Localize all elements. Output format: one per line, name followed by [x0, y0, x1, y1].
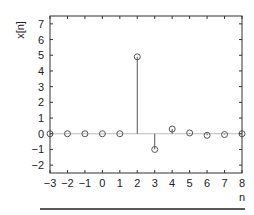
axis-ticks: [50, 16, 242, 173]
plot-frame: [50, 16, 242, 173]
y-tick-label: −2: [31, 159, 44, 171]
x-tick-label: −3: [44, 177, 57, 189]
y-tick-label: −1: [31, 143, 44, 155]
stem-point: [134, 54, 140, 134]
y-tick-label: 3: [38, 81, 44, 93]
x-tick-label: −1: [79, 177, 92, 189]
stem-point: [187, 130, 193, 136]
y-tick-label: 7: [38, 18, 44, 30]
tick-labels: −3−2−1012345678−2−101234567: [31, 18, 245, 189]
x-tick-label: 3: [152, 177, 158, 189]
stem-point: [222, 132, 228, 138]
x-tick-label: 0: [99, 177, 105, 189]
x-tick-label: 7: [221, 177, 227, 189]
stem-chart: −3−2−1012345678−2−101234567 x[n] n: [0, 0, 254, 215]
x-tick-label: −2: [61, 177, 74, 189]
x-axis-label: n: [239, 191, 245, 203]
stem-point: [204, 132, 210, 138]
y-tick-label: 6: [38, 34, 44, 46]
x-tick-label: 8: [239, 177, 245, 189]
x-tick-label: 4: [169, 177, 175, 189]
x-tick-label: 2: [134, 177, 140, 189]
stems: [47, 54, 245, 153]
stem-point: [169, 126, 175, 134]
x-tick-label: 1: [117, 177, 123, 189]
x-tick-label: 6: [204, 177, 210, 189]
x-tick-label: 5: [187, 177, 193, 189]
y-tick-label: 2: [38, 96, 44, 108]
y-tick-label: 0: [38, 128, 44, 140]
y-tick-label: 4: [38, 65, 44, 77]
stem-point: [152, 134, 158, 153]
y-tick-label: 1: [38, 112, 44, 124]
y-axis-label: x[n]: [14, 21, 26, 39]
y-tick-label: 5: [38, 49, 44, 61]
